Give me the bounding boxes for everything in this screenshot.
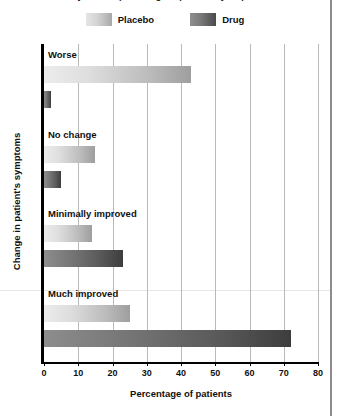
x-tick-label: 0: [41, 368, 46, 378]
x-tick: [181, 362, 182, 366]
legend-label-drug: Drug: [222, 15, 244, 25]
x-axis-line: [41, 362, 318, 364]
bar-group-label: No change: [48, 129, 97, 141]
x-tick: [318, 362, 319, 366]
bar-placebo: [44, 66, 191, 83]
legend-item-placebo: Placebo: [86, 13, 154, 26]
legend-label-placebo: Placebo: [118, 15, 154, 25]
bar-group: Worse: [44, 44, 318, 124]
x-tick: [44, 362, 45, 366]
x-tick: [284, 362, 285, 366]
x-tick-label: 50: [210, 368, 220, 378]
plot-area: 01020304050607080 WorseNo changeMinimall…: [44, 44, 318, 362]
y-axis-title: Change in patient's symptoms: [11, 122, 22, 282]
bar-placebo: [44, 146, 95, 163]
bar-group-label: Minimally improved: [48, 208, 137, 220]
x-tick: [78, 362, 79, 366]
x-tick-label: 70: [279, 368, 289, 378]
x-tick-label: 40: [176, 368, 186, 378]
drug-swatch-icon: [190, 13, 216, 26]
bar-group-label: Much improved: [48, 288, 118, 300]
bar-group: Minimally improved: [44, 203, 318, 283]
bar-drug: [44, 250, 123, 267]
x-tick: [215, 362, 216, 366]
x-tick: [147, 362, 148, 366]
x-tick-label: 30: [142, 368, 152, 378]
x-tick-label: 60: [244, 368, 254, 378]
page-border: [330, 0, 332, 416]
placebo-swatch-icon: [86, 13, 112, 26]
legend-item-drug: Drug: [190, 13, 244, 26]
chart-legend: Placebo Drug: [0, 13, 330, 26]
bar-drug: [44, 330, 291, 347]
bar-group: No change: [44, 124, 318, 204]
bar-placebo: [44, 225, 92, 242]
chart-figure: Study results: percentage of patients by…: [0, 0, 337, 416]
gridline: [318, 44, 319, 362]
x-tick-label: 80: [313, 368, 323, 378]
chart-title: Study results: percentage of patients by…: [58, 0, 308, 1]
x-tick-label: 10: [73, 368, 83, 378]
bar-group-label: Worse: [48, 49, 77, 61]
x-tick: [250, 362, 251, 366]
x-tick: [113, 362, 114, 366]
x-tick-label: 20: [107, 368, 117, 378]
bar-drug: [44, 171, 61, 188]
bar-group: Much improved: [44, 283, 318, 363]
bar-placebo: [44, 305, 130, 322]
x-axis-title: Percentage of patients: [44, 388, 318, 399]
bar-drug: [44, 91, 51, 108]
